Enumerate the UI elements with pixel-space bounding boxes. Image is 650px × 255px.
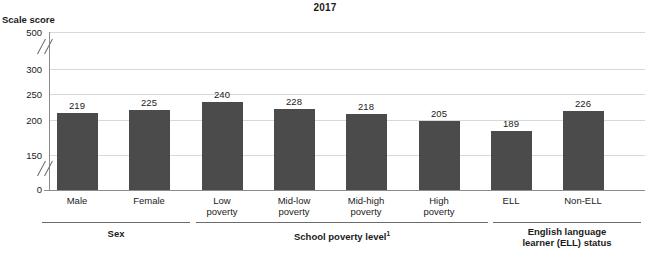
category-label-non-ell: Non-ELL [541, 195, 625, 206]
group-rule-school-poverty [196, 222, 488, 223]
category-label-mid-high-poverty: Mid-high poverty [324, 195, 408, 217]
bar-mid-high-poverty[interactable] [346, 114, 387, 190]
y-tick-label-150: 150 [12, 150, 42, 161]
chart-title: 2017 [0, 2, 650, 13]
category-label-high-poverty-line2: poverty [397, 206, 481, 217]
y-tick-label-200: 200 [12, 115, 42, 126]
y-tick-label-250: 250 [12, 89, 42, 100]
category-label-mid-high-poverty-line1: Mid-high [324, 195, 408, 206]
category-label-non-ell-line1: Non-ELL [541, 195, 625, 206]
bar-value-female: 225 [121, 97, 177, 108]
bar-male[interactable] [57, 113, 98, 190]
group-label-sex: Sex [42, 228, 190, 239]
category-label-female: Female [107, 195, 191, 206]
bar-high-poverty[interactable] [419, 121, 460, 190]
group-label-school-poverty-text: School poverty level [294, 231, 386, 242]
bar-female[interactable] [129, 110, 170, 190]
gridline-500 [50, 32, 645, 33]
group-label-school-poverty: School poverty level1 [196, 228, 488, 242]
category-label-mid-high-poverty-line2: poverty [324, 206, 408, 217]
bar-mid-low-poverty[interactable] [274, 109, 315, 190]
bar-value-non-ell: 226 [555, 98, 611, 109]
y-tick-label-0: 0 [12, 184, 42, 195]
bar-value-mid-low-poverty: 228 [266, 96, 322, 107]
bar-value-ell: 189 [483, 118, 539, 129]
bar-value-male: 219 [49, 100, 105, 111]
y-tick-label-300: 300 [12, 64, 42, 75]
gridline-300 [50, 69, 645, 70]
bar-value-high-poverty: 205 [411, 108, 467, 119]
group-label-school-poverty-footnote: 1 [386, 230, 390, 237]
bar-ell[interactable] [491, 131, 532, 190]
bar-non-ell[interactable] [563, 111, 604, 190]
group-rule-sex [42, 222, 190, 223]
group-label-ell-status-line1: English language [493, 226, 641, 237]
x-axis-baseline [44, 190, 645, 191]
category-label-female-line1: Female [107, 195, 191, 206]
group-rule-ell-status [493, 222, 641, 223]
bar-low-poverty[interactable] [202, 102, 243, 190]
bar-value-mid-high-poverty: 218 [338, 101, 394, 112]
bar-value-low-poverty: 240 [194, 89, 250, 100]
y-axis-line [49, 32, 50, 191]
y-axis-title: Scale score [2, 14, 55, 25]
group-label-ell-status: English language learner (ELL) status [493, 226, 641, 248]
gridline-250 [50, 94, 645, 95]
y-tick-label-500: 500 [12, 27, 42, 38]
group-label-ell-status-line2: learner (ELL) status [493, 237, 641, 248]
group-label-sex-text: Sex [108, 228, 125, 239]
